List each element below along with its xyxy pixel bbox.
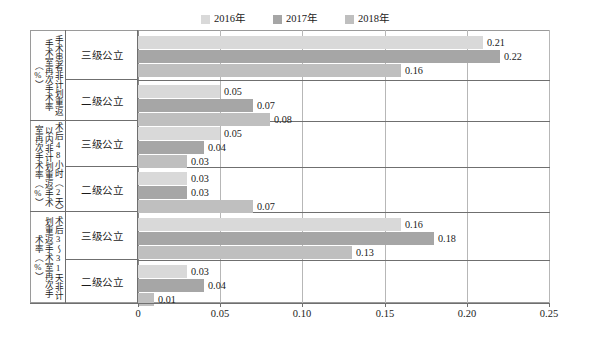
bar-g2-sanji-2018[interactable] [138,155,187,168]
group-label-text: 手术患者非计划重返手术室再次手术率（%） [33,30,63,120]
legend-swatch-icon [201,15,210,24]
bar-value-g3-erji-2018: 0.01 [158,293,176,306]
x-tick-label-010: 0.10 [293,308,311,319]
bar-value-g3-sanji-2017: 0.18 [438,232,456,245]
category-label: 三级公立 [81,228,123,243]
x-tick-005 [220,303,221,307]
bar-g1-erji-2017[interactable] [138,99,253,112]
x-tick-0 [138,303,139,307]
category-label: 三级公立 [81,136,123,151]
legend-label: 2017年 [286,14,317,25]
bar-value-g2-erji-2017: 0.03 [191,186,209,199]
legend-item-2017[interactable]: 2017年 [273,14,317,25]
category-label: 二级公立 [81,93,123,108]
bar-value-g1-erji-2018: 0.08 [274,113,292,126]
category-label: 二级公立 [81,274,123,289]
chart-legend: 2016年 2017年 2018年 [0,11,590,27]
bar-g3-erji-2018[interactable] [138,293,154,306]
category-separator-g1 [138,80,550,81]
bar-value-g3-erji-2017: 0.04 [208,279,226,292]
bar-g1-sanji-2017[interactable] [138,50,500,63]
x-tick-020 [467,303,468,307]
bar-value-g1-erji-2016: 0.05 [224,85,242,98]
x-tick-010 [302,303,303,307]
category-separator-g3 [138,260,550,261]
bar-g2-erji-2016[interactable] [138,172,187,185]
legend-swatch-icon [345,15,354,24]
category-cell-g2-sanji: 三级公立 [66,121,138,167]
x-tick-label-025: 0.25 [540,308,558,319]
bar-g1-sanji-2016[interactable] [138,36,483,49]
bar-g3-erji-2016[interactable] [138,265,187,278]
category-cell-g3-erji: 二级公立 [66,260,138,303]
plot-area: 0.21 0.22 0.16 0.05 0.07 0.08 0.05 0.04 … [138,30,550,303]
legend-label: 2016年 [214,14,245,25]
bar-value-g1-sanji-2017: 0.22 [504,50,522,63]
bar-value-g3-sanji-2016: 0.16 [405,218,423,231]
x-tick-025 [549,303,550,307]
bar-g1-sanji-2018[interactable] [138,64,401,77]
category-label: 二级公立 [81,182,123,197]
x-tick-label-005: 0.05 [211,308,229,319]
bar-value-g1-sanji-2018: 0.16 [405,64,423,77]
group-label-text: 术后3～31天非计划重返手术室再次手术率（%） [33,212,63,303]
bar-g3-sanji-2018[interactable] [138,246,352,259]
bar-value-g1-sanji-2016: 0.21 [487,36,505,49]
bar-value-g2-sanji-2017: 0.04 [208,141,226,154]
bar-value-g3-erji-2016: 0.03 [191,265,209,278]
group-label-cell-2: 术后48小时（2天）以内非计划重返手术室再次手术率（%） [30,121,66,212]
category-cell-g1-sanji: 三级公立 [66,30,138,80]
bar-g2-erji-2017[interactable] [138,186,187,199]
bar-value-g2-sanji-2018: 0.03 [191,155,209,168]
x-tick-label-020: 0.20 [458,308,476,319]
bar-g3-sanji-2016[interactable] [138,218,401,231]
bar-g2-sanji-2017[interactable] [138,141,204,154]
bar-value-g2-sanji-2016: 0.05 [224,127,242,140]
bar-value-g2-erji-2018: 0.07 [257,200,275,213]
bar-g3-sanji-2017[interactable] [138,232,434,245]
bar-value-g3-sanji-2018: 0.13 [356,246,374,259]
legend-label: 2018年 [358,14,389,25]
legend-item-2016[interactable]: 2016年 [201,14,245,25]
group-label-cell-1: 手术患者非计划重返手术室再次手术率（%） [30,30,66,121]
legend-item-2018[interactable]: 2018年 [345,14,389,25]
bar-g2-sanji-2016[interactable] [138,127,220,140]
category-label-column: 三级公立 二级公立 三级公立 二级公立 三级公立 二级公立 [66,30,138,303]
category-label: 三级公立 [81,47,123,62]
chart-container: 2016年 2017年 2018年 手术患者非计划重返手术室再次手术率（%） 术… [0,0,590,340]
category-cell-g3-sanji: 三级公立 [66,212,138,260]
x-tick-label-015: 0.15 [376,308,394,319]
bar-value-g1-erji-2017: 0.07 [257,99,275,112]
group-label-cell-3: 术后3～31天非计划重返手术室再次手术率（%） [30,212,66,303]
bar-g2-erji-2018[interactable] [138,200,253,213]
x-tick-015 [385,303,386,307]
bar-g1-erji-2016[interactable] [138,85,220,98]
bar-value-g2-erji-2016: 0.03 [191,172,209,185]
x-axis-line [30,303,550,304]
x-tick-label-0: 0 [135,308,140,319]
group-label-column: 手术患者非计划重返手术室再次手术率（%） 术后48小时（2天）以内非计划重返手术… [30,30,66,303]
group-label-text: 术后48小时（2天）以内非计划重返手术室再次手术率（%） [33,121,63,211]
legend-swatch-icon [273,15,282,24]
category-cell-g1-erji: 二级公立 [66,80,138,121]
bar-g3-erji-2017[interactable] [138,279,204,292]
bar-g1-erji-2018[interactable] [138,113,270,126]
category-cell-g2-erji: 二级公立 [66,167,138,212]
